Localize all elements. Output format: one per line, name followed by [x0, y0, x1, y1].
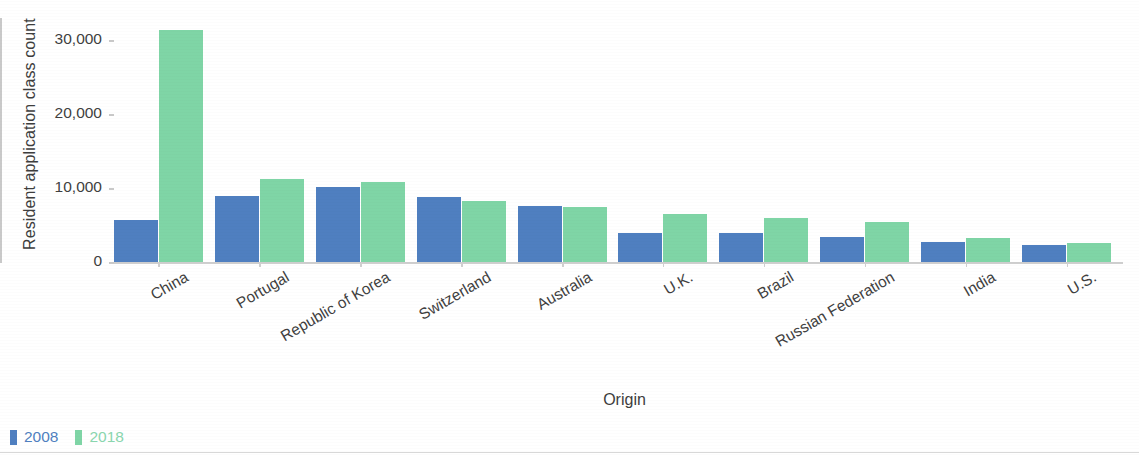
x-tick-label: China — [24, 268, 191, 375]
x-axis-title: Origin — [0, 391, 1139, 409]
legend-item-2018[interactable]: 2018 — [75, 428, 123, 446]
bar-u-k--2018 — [663, 214, 707, 262]
bar-portugal-2018 — [260, 179, 304, 262]
y-tick-label: 0 — [12, 252, 102, 270]
x-tick-mark — [158, 262, 160, 267]
bar-china-2018 — [159, 30, 203, 262]
legend-label: 2008 — [24, 428, 58, 446]
legend-label: 2018 — [89, 428, 123, 446]
x-tick-mark — [663, 262, 665, 267]
bar-portugal-2008 — [215, 196, 259, 262]
bar-australia-2008 — [518, 206, 562, 262]
bar-brazil-2008 — [719, 233, 763, 262]
bar-u-k--2008 — [618, 233, 662, 262]
legend-swatch-icon — [10, 430, 17, 445]
bar-switzerland-2008 — [417, 197, 461, 262]
bar-china-2008 — [114, 220, 158, 262]
bar-chart: Resident application class count 010,000… — [0, 0, 1139, 455]
x-tick-mark — [865, 262, 867, 267]
y-tick-label: 10,000 — [12, 178, 102, 196]
bar-russian-federation-2018 — [865, 222, 909, 262]
page-edge-line — [0, 452, 1139, 453]
x-tick-mark — [360, 262, 362, 267]
bar-india-2018 — [966, 238, 1010, 262]
bar-australia-2018 — [563, 207, 607, 262]
y-tick-label: 20,000 — [12, 104, 102, 122]
y-tick-label: 30,000 — [12, 30, 102, 48]
legend-item-2008[interactable]: 2008 — [10, 428, 58, 446]
bar-russian-federation-2008 — [820, 237, 864, 262]
bar-india-2008 — [921, 242, 965, 262]
x-tick-mark — [562, 262, 564, 267]
x-tick-mark — [1067, 262, 1069, 267]
x-tick-mark — [966, 262, 968, 267]
bar-switzerland-2018 — [462, 201, 506, 262]
x-tick-mark — [764, 262, 766, 267]
x-axis-line — [114, 262, 1123, 264]
bar-u-s--2018 — [1067, 243, 1111, 262]
x-tick-mark — [461, 262, 463, 267]
y-tick-mark — [109, 262, 114, 264]
x-tick-mark — [259, 262, 261, 267]
chart-legend: 20082018 — [10, 428, 124, 446]
bar-republic-of-korea-2018 — [361, 182, 405, 262]
bar-republic-of-korea-2008 — [316, 187, 360, 262]
legend-swatch-icon — [75, 430, 82, 445]
y-axis-line — [0, 18, 2, 263]
bar-u-s--2008 — [1022, 245, 1066, 262]
x-axis-title-text: Origin — [603, 391, 646, 408]
x-tick-label: U.K. — [92, 268, 696, 455]
bars-layer — [114, 18, 1123, 262]
bar-brazil-2018 — [764, 218, 808, 262]
